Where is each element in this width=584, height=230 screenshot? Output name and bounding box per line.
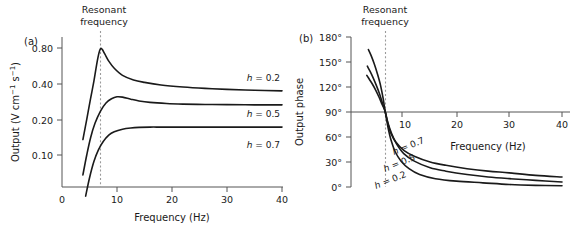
panel-b-ytick-90: 90°: [325, 107, 342, 118]
panel-b-y-ticks: 180° 150° 120° 90° 60° 30° 0°: [319, 32, 351, 193]
panel-b-x-axis-title: Frequency (Hz): [450, 141, 526, 152]
panel-a-xtick-3: 30: [221, 194, 233, 205]
panel-b-ytick-120: 120°: [319, 82, 342, 93]
panel-b-resonant-annotation-line2: frequency: [361, 16, 409, 27]
panel-a-ytick-3: 0.10: [32, 150, 53, 161]
panel-a-resonant-annotation-line1: Resonant: [82, 4, 127, 15]
panel-a-ytick-1: 0.40: [32, 79, 53, 90]
panel-b-ytick-60: 60°: [325, 132, 342, 143]
figure-container: (a) Resonant frequency Output (V cm−1 s−…: [0, 0, 584, 230]
panel-b-series-label-h02: h = 0.2: [373, 169, 408, 191]
panel-b-ytick-0: 0°: [331, 182, 342, 193]
panel-b-ytick-150: 150°: [319, 57, 342, 68]
panel-a-series-label-h02: h = 0.2: [247, 73, 280, 83]
panel-a-series-label-h07: h = 0.7: [247, 140, 280, 150]
panel-a-ytick-2: 0.20: [32, 115, 53, 126]
panel-b: (b) Resonant frequency Output phase 180°…: [292, 0, 584, 230]
panel-b-xtick-20: 20: [451, 119, 463, 130]
panel-b-xtick-40: 40: [556, 119, 568, 130]
panel-a-curve-h02: [83, 48, 282, 139]
panel-a: (a) Resonant frequency Output (V cm−1 s−…: [0, 0, 292, 230]
panel-b-ytick-180: 180°: [319, 32, 342, 43]
panel-a-xtick-1: 10: [111, 194, 123, 205]
panel-b-y-axis-title: Output phase: [294, 78, 305, 146]
panel-b-x-ticks: 10 20 30 40: [399, 112, 568, 130]
panel-a-x-axis-title: Frequency (Hz): [134, 212, 210, 223]
panel-b-ytick-30: 30°: [325, 157, 342, 168]
panel-a-x-ticks: 0 10 20 30 40: [59, 187, 288, 205]
panel-a-resonant-annotation-line2: frequency: [80, 16, 128, 27]
panel-a-xtick-4: 40: [276, 194, 288, 205]
panel-a-y-axis-title: Output (V cm−1 s−1): [9, 62, 21, 162]
panel-a-curve-h07: [86, 127, 282, 196]
panel-a-curves: [83, 48, 282, 196]
panel-a-xtick-2: 20: [166, 194, 178, 205]
panel-a-xtick-0: 0: [59, 194, 65, 205]
panel-b-resonant-annotation-line1: Resonant: [363, 4, 408, 15]
panel-a-y-ticks: 0.80 0.40 0.20 0.10: [32, 43, 62, 161]
panel-a-series-labels: h = 0.2 h = 0.5 h = 0.7: [247, 73, 280, 150]
panel-a-series-label-h05: h = 0.5: [247, 109, 280, 119]
panel-b-xtick-30: 30: [503, 119, 515, 130]
panel-a-ytick-0: 0.80: [32, 43, 53, 54]
panel-a-y-axis-title-text: Output (V cm−1 s−1): [9, 62, 21, 162]
panel-b-letter: (b): [299, 33, 313, 44]
panel-b-xtick-10: 10: [399, 119, 411, 130]
